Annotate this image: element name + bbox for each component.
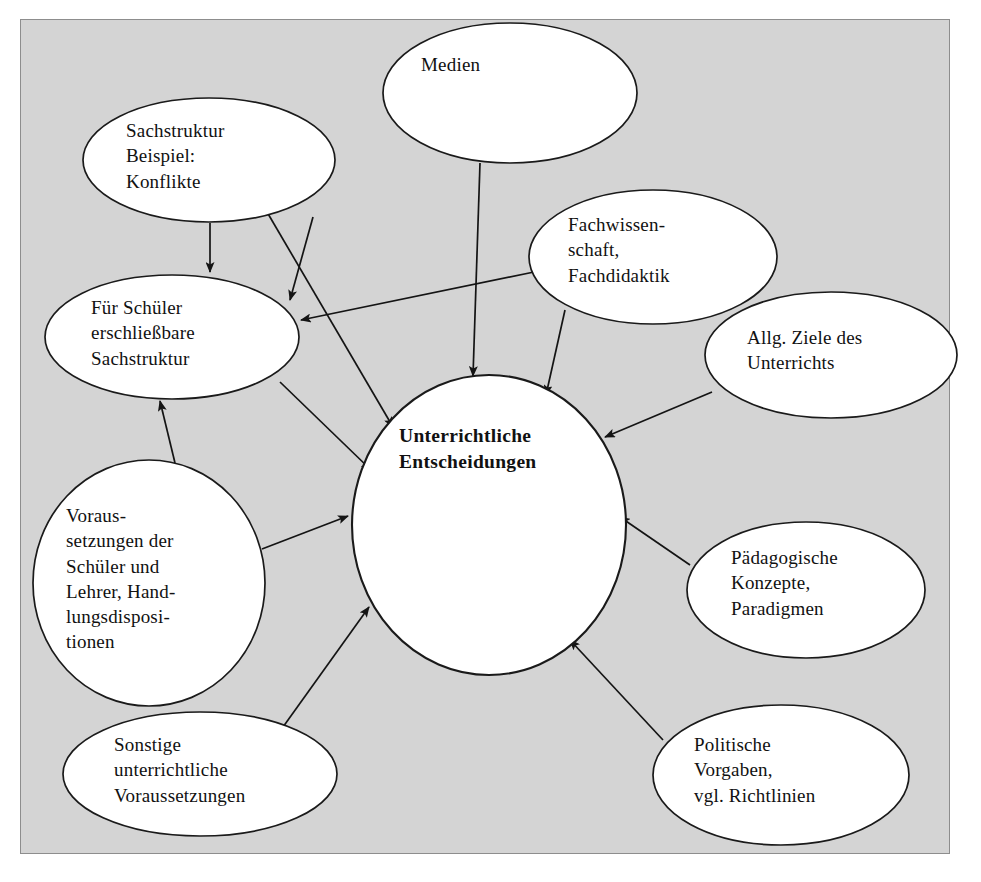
edge-fachwissenschaft-to-fuerschueler [301, 272, 534, 320]
node-ellipse-fuer-schueler-sachstruktur[interactable] [45, 275, 299, 399]
node-ellipse-unterrichtliche-entscheidungen[interactable] [352, 375, 626, 675]
node-ellipse-paedagogische-konzepte[interactable] [687, 522, 925, 658]
node-ellipse-sonstige-voraussetzungen[interactable] [63, 712, 337, 836]
edge-voraussetzungen-to-fuerschueler [160, 401, 175, 463]
node-ellipse-sachstruktur-beispiel[interactable] [83, 98, 335, 222]
node-ellipse-voraussetzungen[interactable] [33, 460, 265, 706]
edge-fachwissenschaft-to-zentrum [546, 310, 565, 395]
diagram-root: MedienSachstruktur Beispiel: KonflikteFa… [0, 0, 981, 882]
node-ellipse-allg-ziele[interactable] [705, 292, 957, 418]
node-ellipse-fachwissenschaft[interactable] [529, 190, 777, 324]
edge-politische-to-zentrum [570, 640, 663, 740]
node-ellipse-medien[interactable] [383, 23, 637, 163]
edge-voraussetzungen-to-zentrum [262, 516, 348, 549]
edge-allgziele-to-zentrum [605, 392, 712, 437]
edge-medien-to-zentrum [473, 163, 480, 376]
diagram-canvas [0, 0, 981, 882]
edge-sonstige-to-zentrum [283, 607, 369, 727]
node-ellipse-politische-vorgaben[interactable] [653, 705, 909, 845]
edge-paedagogische-to-zentrum [620, 517, 690, 565]
edge-fuerschueler-to-zentrum [280, 382, 371, 470]
nodes-layer [33, 23, 957, 845]
